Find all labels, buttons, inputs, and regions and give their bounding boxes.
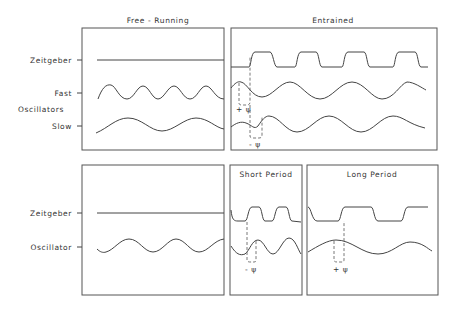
entrained-zeitgeber-wave — [231, 52, 428, 67]
long-period-title: Long Period — [347, 170, 398, 179]
zeitgeber-label-top: Zeitgeber — [30, 56, 72, 65]
entrainment-diagram: Free - Running Entrained Zeitgeber Fast … — [0, 0, 459, 310]
slow-oscillator-wave — [96, 118, 224, 133]
short-period-phase-label: - ψ — [245, 265, 257, 274]
short-period-zeitgeber-wave — [231, 207, 301, 222]
slow-label: Slow — [52, 122, 72, 131]
long-period-zeitgeber-wave — [308, 207, 428, 221]
zeitgeber-label-bottom: Zeitgeber — [30, 209, 72, 218]
short-period-panel — [230, 165, 302, 295]
long-period-panel — [307, 165, 438, 295]
oscillators-label: Oscillators — [18, 105, 64, 114]
entrained-title: Entrained — [312, 16, 354, 25]
short-period-title: Short Period — [239, 170, 292, 179]
fast-phase-bracket — [239, 56, 250, 105]
slow-phase-label: - ψ — [249, 140, 261, 149]
long-period-phase-label: + ψ — [333, 265, 348, 274]
bottom-free-running-panel — [82, 165, 224, 295]
slow-phase-bracket — [250, 105, 262, 138]
entrained-slow-wave — [231, 116, 425, 132]
entrained-panel — [231, 28, 437, 150]
fast-phase-label: + ψ — [236, 105, 251, 114]
short-period-oscillator-wave — [231, 238, 301, 255]
entrained-fast-wave — [231, 82, 426, 99]
long-period-phase-bracket — [334, 221, 344, 262]
oscillator-label: Oscillator — [31, 243, 73, 252]
fast-label: Fast — [55, 89, 72, 98]
long-period-oscillator-wave — [308, 240, 432, 254]
bottom-oscillator-wave — [97, 239, 224, 252]
free-running-title: Free - Running — [127, 16, 190, 25]
fast-oscillator-wave — [98, 85, 224, 99]
